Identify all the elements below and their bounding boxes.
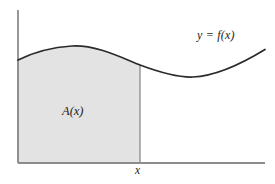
- area-function-label: A(x): [62, 104, 84, 119]
- x-axis-tick-label: x: [135, 164, 140, 176]
- curve-equation-label: y = f(x): [197, 28, 235, 43]
